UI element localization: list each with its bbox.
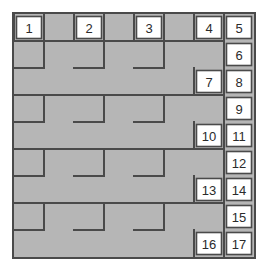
puzzle-figure: 1234567891011121314151617: [0, 0, 266, 270]
tetromino-grid-board[interactable]: 1234567891011121314151617: [12, 12, 256, 259]
cell-number-label: 17: [232, 237, 246, 252]
cell-number-label: 5: [235, 21, 242, 36]
cell-number-label: 16: [202, 237, 216, 252]
cell-number-label: 6: [235, 48, 242, 63]
board-overlay-svg: 1234567891011121314151617: [14, 14, 254, 257]
cell-number-label: 12: [232, 156, 246, 171]
cell-number-label: 13: [202, 183, 216, 198]
cell-number-label: 11: [232, 129, 246, 144]
cell-number-label: 14: [232, 183, 246, 198]
tile-separation-lines: [14, 14, 224, 257]
cell-number-label: 3: [145, 21, 152, 36]
numbered-white-cells: 1234567891011121314151617: [17, 17, 252, 255]
cell-number-label: 15: [232, 210, 246, 225]
cell-number-label: 1: [25, 21, 32, 36]
cell-number-label: 9: [235, 102, 242, 117]
cell-number-label: 7: [205, 75, 212, 90]
cell-number-label: 10: [202, 129, 216, 144]
cell-number-label: 4: [205, 21, 212, 36]
cell-number-label: 8: [235, 75, 242, 90]
cell-number-label: 2: [85, 21, 92, 36]
